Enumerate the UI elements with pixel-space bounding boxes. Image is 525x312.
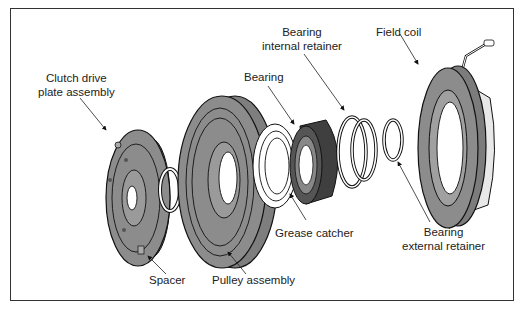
label-line: Bearing <box>402 225 485 239</box>
label-spacer: Spacer <box>149 273 185 287</box>
label-line: external retainer <box>402 239 485 253</box>
field-coil-part <box>418 40 495 228</box>
label-clutch-drive-plate-assembly: Clutch drive plate assembly <box>38 71 115 99</box>
bearing-external-retainer-part <box>384 120 402 160</box>
label-bearing: Bearing <box>244 70 284 84</box>
label-line: plate assembly <box>38 85 115 99</box>
label-bearing-internal-retainer: Bearing internal retainer <box>262 25 342 53</box>
label-bearing-external-retainer: Bearing external retainer <box>402 225 485 253</box>
label-line: Bearing <box>262 25 342 39</box>
label-line: Clutch drive <box>38 71 115 85</box>
label-pulley-assembly: Pulley assembly <box>212 273 295 287</box>
bearing-part <box>290 120 338 204</box>
label-grease-catcher: Grease catcher <box>275 226 354 240</box>
bearing-internal-retainer-part <box>338 117 376 187</box>
label-field-coil: Field coil <box>376 25 421 39</box>
label-line: internal retainer <box>262 39 342 53</box>
